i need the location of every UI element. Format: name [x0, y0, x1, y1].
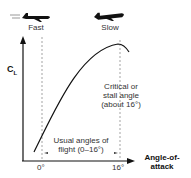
- airplane-fast-icon: [10, 13, 50, 22]
- airplane-slow-icon: [94, 11, 124, 21]
- x-tick-16: 16°: [112, 163, 124, 172]
- y-axis-label: CL: [7, 65, 17, 78]
- stall-annotation: Critical or stall angle (about 16°): [96, 82, 146, 109]
- slow-label: Slow: [99, 23, 121, 32]
- x-tick-0: 0°: [37, 163, 45, 172]
- usual-annotation: Usual angles of flight (0–16°): [46, 136, 116, 154]
- x-axis-label: Angle-of- attack: [138, 153, 186, 171]
- fast-label: Fast: [26, 23, 46, 32]
